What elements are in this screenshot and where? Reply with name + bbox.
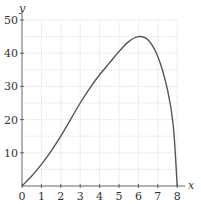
x-tick-label: 8 [174, 190, 181, 203]
y-tick-label: 30 [4, 80, 18, 93]
x-tick-label: 6 [135, 190, 142, 203]
axes [20, 14, 185, 188]
y-tick-label: 10 [4, 147, 18, 160]
x-tick-label: 0 [19, 190, 26, 203]
y-tick-label: 50 [4, 14, 18, 27]
x-tick-label: 1 [38, 190, 45, 203]
y-tick-label: 40 [4, 47, 18, 60]
x-tick-label: 7 [154, 190, 161, 203]
tick-labels: 0123456781020304050 [4, 14, 181, 203]
chart: 0123456781020304050 x y [0, 0, 201, 204]
y-axis-label: y [18, 2, 26, 15]
x-tick-label: 4 [96, 190, 103, 203]
x-tick-label: 5 [116, 190, 123, 203]
x-axis-label: x [188, 179, 195, 192]
x-tick-label: 3 [77, 190, 84, 203]
grid [22, 20, 177, 186]
y-tick-label: 20 [4, 114, 18, 127]
x-tick-label: 2 [57, 190, 64, 203]
